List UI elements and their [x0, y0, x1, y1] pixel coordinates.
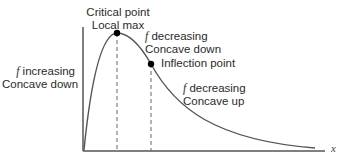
right-region-label: f decreasing Concave up — [183, 82, 246, 108]
inflection-point-marker — [148, 61, 154, 67]
critical-point-label: Critical point Local max — [84, 6, 152, 32]
left-region-line1: f increasing — [2, 65, 75, 78]
middle-region-line1-text: decreasing — [148, 30, 207, 42]
left-region-line1-text: increasing — [19, 65, 75, 77]
x-axis-label: x — [331, 142, 336, 154]
middle-region-label: f decreasing Concave down — [145, 30, 221, 56]
middle-region-line1: f decreasing — [145, 30, 221, 43]
left-region-label: f increasing Concave down — [2, 65, 75, 91]
critical-point-line1: Critical point — [84, 6, 152, 19]
left-region-line2: Concave down — [2, 78, 75, 91]
right-region-line1-text: decreasing — [186, 82, 245, 94]
inflection-point-label: Inflection point — [161, 57, 235, 70]
right-region-line2: Concave up — [183, 95, 246, 108]
middle-region-line2: Concave down — [145, 43, 221, 56]
right-region-line1: f decreasing — [183, 82, 246, 95]
critical-point-line2: Local max — [84, 19, 152, 32]
